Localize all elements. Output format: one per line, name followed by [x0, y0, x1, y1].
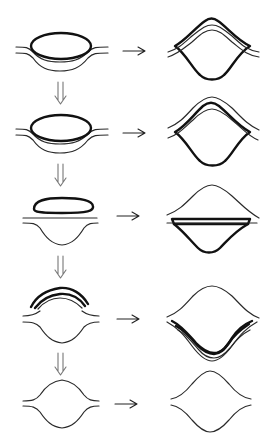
- row-5-right: [171, 371, 251, 432]
- bowl-curve: [23, 223, 98, 245]
- diamond-outline: [175, 19, 250, 80]
- lens-top-curve: [23, 380, 99, 401]
- diamond-outline: [175, 103, 250, 166]
- right-arrow-2: [123, 129, 145, 137]
- right-arrow-5: [115, 400, 137, 408]
- row-3-left: [23, 198, 98, 245]
- bowl-outline: [174, 224, 248, 253]
- right-arrow-3: [117, 212, 139, 220]
- row-5-left: [23, 380, 99, 428]
- upper-bump-curve: [167, 185, 259, 218]
- lens-bottom-curve: [23, 322, 99, 343]
- down-arrow-2: [55, 164, 66, 186]
- lens-bottom-curve: [23, 406, 99, 428]
- row-2-left: [16, 115, 108, 153]
- down-arrow-1: [55, 82, 66, 104]
- row-1-left: [16, 33, 108, 71]
- right-arrow-1: [123, 47, 145, 55]
- flattened-lozenge: [34, 198, 93, 213]
- lens-top-curve: [23, 311, 99, 316]
- row-4-left: [23, 288, 99, 343]
- arched-band-inner: [35, 294, 85, 308]
- right-arrow-4: [117, 315, 139, 323]
- row-3-right: [167, 185, 259, 253]
- upper-dome-curve: [167, 286, 259, 318]
- row-1-right: [168, 19, 259, 80]
- down-arrow-4: [55, 353, 66, 375]
- thick-ellipse: [31, 33, 91, 59]
- row-2-right: [168, 97, 259, 166]
- process-diagram: [0, 0, 275, 447]
- pointed-lens-top: [171, 371, 251, 399]
- row-4-right: [167, 286, 259, 361]
- thick-ellipse: [31, 115, 91, 141]
- down-arrow-3: [55, 256, 66, 278]
- pointed-lens-bottom: [171, 405, 251, 432]
